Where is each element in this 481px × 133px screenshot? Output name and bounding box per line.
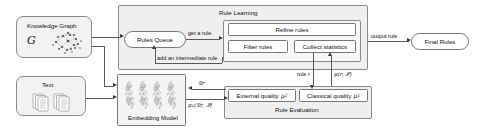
arrowhead-output-rule (407, 38, 411, 42)
rule-evaluation-title: Rule Evaluation (275, 107, 318, 113)
collect-statistics-box[interactable]: Collect statistics (294, 40, 356, 53)
graph-nodes-icon (50, 31, 84, 53)
output-rule-label: output rule (371, 34, 397, 40)
embedding-vectors-icon (122, 79, 182, 112)
rule-r-label: rule r (297, 72, 310, 78)
filter-rules-label: Filter rules (229, 41, 287, 52)
mu2-gr-p-label: μ₂(𝒢r, 𝒫) (188, 103, 212, 109)
refine-rules-label: Refine rules (229, 24, 355, 35)
rule-learning-title: Rule Learning (219, 10, 258, 16)
collect-statistics-label: Collect statistics (295, 41, 355, 52)
g-r-label: 𝒢r (198, 81, 205, 87)
external-quality-subscript: 2 (285, 93, 288, 98)
arrowhead-add-intermediate (152, 45, 156, 49)
mu-r-p-label: μ(r, 𝒫) (334, 72, 352, 78)
edge-mu2-gr-p (186, 99, 224, 100)
embedding-model-label: Embedding Model (128, 115, 178, 121)
edge-g-r (192, 89, 226, 90)
edge-kg-branch-v (104, 46, 105, 86)
document-stack-icon (30, 92, 74, 114)
edge-add-intermediate-v1 (222, 57, 223, 63)
refine-rules-box[interactable]: Refine rules (228, 23, 356, 36)
edge-get-a-rule (186, 39, 219, 40)
external-quality-box[interactable]: External quality μ2 (228, 89, 296, 102)
arrowhead-kg-to-embedding (113, 83, 117, 87)
add-intermediate-rule-label: add an intermediate rule (157, 56, 217, 62)
final-rules-label: Final Rules (412, 34, 468, 49)
classical-quality-box[interactable]: Classical quality μ1 (299, 89, 368, 102)
arrowhead-mu-r-p (328, 52, 332, 56)
classical-quality-subscript: 1 (357, 93, 360, 98)
rule-r-text: rule r (297, 71, 310, 77)
knowledge-graph-symbol: G (27, 34, 36, 47)
edge-kg-branch-h (92, 46, 104, 47)
external-quality-label: External quality (236, 92, 278, 99)
edge-add-intermediate-v2 (155, 48, 156, 63)
filter-rules-box[interactable]: Filter rules (228, 40, 288, 53)
arrowhead-g-r (188, 86, 192, 90)
arrowhead-kg-to-rules-queue (120, 34, 124, 38)
arrowhead-get-a-rule (219, 36, 223, 40)
edge-text-to-embedding (86, 98, 113, 99)
edge-mu-r-p (331, 56, 332, 86)
text-label: Text (42, 82, 53, 88)
edge-kg-to-embedding (104, 86, 113, 87)
diagram-canvas: Knowledge Graph G Text (0, 0, 481, 133)
classical-quality-label: Classical quality (307, 92, 351, 99)
edge-kg-to-rules-queue (104, 37, 120, 38)
final-rules-node[interactable]: Final Rules (411, 33, 469, 50)
get-a-rule-label: get a rule (188, 31, 211, 37)
arrowhead-mu2-gr-p (224, 96, 228, 100)
edge-rule-r (313, 53, 314, 85)
edge-output-rule (368, 41, 409, 42)
edge-add-intermediate-h (155, 63, 222, 64)
arrowhead-text-to-embedding (113, 95, 117, 99)
knowledge-graph-label: Knowledge Graph (27, 23, 77, 29)
edge-kg-trunk (92, 37, 104, 38)
arrowhead-rule-r (310, 85, 314, 89)
